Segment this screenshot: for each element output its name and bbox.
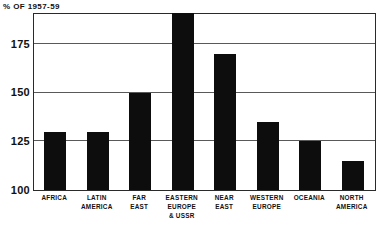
bar xyxy=(44,132,66,190)
gridline-175 xyxy=(34,43,375,44)
y-tick-label-150: 150 xyxy=(11,87,30,98)
y-tick-label-175: 175 xyxy=(11,38,30,49)
x-axis-labels: AFRICALATIN AMERICAFAR EASTEASTERN EUROP… xyxy=(33,193,376,233)
chart-title: % OF 1957-59 xyxy=(3,2,60,12)
x-tick-label: AFRICA xyxy=(33,193,76,202)
bar xyxy=(172,13,194,190)
gridline-150 xyxy=(34,92,375,93)
bar xyxy=(129,93,151,190)
plot-inner xyxy=(34,14,375,190)
x-tick-label: EASTERN EUROPE & USSR xyxy=(161,193,204,221)
x-tick-label: NORTH AMERICA xyxy=(331,193,374,211)
y-tick-label-100: 100 xyxy=(11,184,30,195)
chart-figure: % OF 1957-59 100125150175 AFRICALATIN AM… xyxy=(0,0,379,233)
x-tick-label: LATIN AMERICA xyxy=(76,193,119,211)
bar xyxy=(257,122,279,190)
bar xyxy=(87,132,109,190)
bar xyxy=(299,141,321,190)
x-tick-label: OCEANIA xyxy=(288,193,331,202)
bar xyxy=(214,54,236,190)
x-tick-label: WESTERN EUROPE xyxy=(246,193,289,211)
x-tick-label: NEAR EAST xyxy=(203,193,246,211)
gridline-125 xyxy=(34,140,375,141)
plot-area xyxy=(33,13,376,191)
x-tick-label: FAR EAST xyxy=(118,193,161,211)
y-tick-label-125: 125 xyxy=(11,135,30,146)
y-axis-labels: 100125150175 xyxy=(0,13,30,191)
bar xyxy=(342,161,364,190)
